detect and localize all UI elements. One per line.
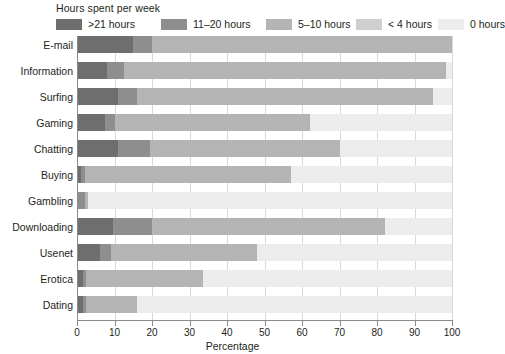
bar-row — [77, 244, 452, 261]
bar-row — [77, 88, 452, 105]
bar-row — [77, 166, 452, 183]
legend-swatch-icon — [266, 19, 292, 30]
bar-row — [77, 140, 452, 157]
bar-row — [77, 296, 452, 313]
x-tick-mark-60 — [302, 321, 303, 326]
x-tick-label-10: 10 — [109, 327, 120, 338]
legend-item-1: >21 hours — [56, 17, 135, 31]
legend-item-label: >21 hours — [88, 18, 135, 30]
legend-item-5: 0 hours — [438, 17, 505, 31]
legend-swatch-icon — [161, 19, 187, 30]
bar-segment — [433, 88, 452, 105]
bar-segment — [77, 244, 100, 261]
x-tick-mark-30 — [190, 321, 191, 326]
bar-segment — [152, 218, 385, 235]
x-tick-label-80: 80 — [371, 327, 382, 338]
bar-segment — [86, 296, 137, 313]
bar-segment — [118, 140, 150, 157]
x-tick-label-60: 60 — [296, 327, 307, 338]
bar-segment — [340, 140, 453, 157]
legend-swatch-icon — [56, 19, 82, 30]
bar-segment — [257, 244, 452, 261]
legend-item-label: 5–10 hours — [298, 18, 351, 30]
x-tick-mark-80 — [377, 321, 378, 326]
bar-segment — [88, 192, 452, 209]
bar-segment — [111, 244, 257, 261]
category-label-gaming: Gaming — [1, 117, 73, 129]
category-label-buying: Buying — [1, 169, 73, 181]
x-tick-mark-70 — [340, 321, 341, 326]
legend-title: Hours spent per week — [56, 2, 160, 14]
category-label-chatting: Chatting — [1, 143, 73, 155]
category-label-erotica: Erotica — [1, 273, 73, 285]
legend-item-label: 11–20 hours — [193, 18, 251, 30]
legend-item-label: < 4 hours — [388, 18, 432, 30]
bar-row — [77, 270, 452, 287]
x-tick-mark-20 — [152, 321, 153, 326]
bar-segment — [107, 62, 124, 79]
bar-row — [77, 62, 452, 79]
bar-segment — [77, 192, 85, 209]
chart-legend: >21 hours11–20 hours5–10 hours< 4 hours0… — [56, 17, 465, 31]
plot-area — [77, 36, 452, 321]
x-tick-label-30: 30 — [184, 327, 195, 338]
category-label-surfing: Surfing — [1, 91, 73, 103]
bar-segment — [113, 218, 152, 235]
category-label-downloading: Downloading — [1, 221, 73, 233]
x-tick-label-40: 40 — [221, 327, 232, 338]
bar-segment — [85, 166, 291, 183]
x-tick-label-100: 100 — [444, 327, 461, 338]
bar-segment — [115, 114, 310, 131]
bar-segment — [100, 244, 111, 261]
bar-segment — [77, 140, 118, 157]
bar-segment — [291, 166, 452, 183]
x-tick-label-50: 50 — [259, 327, 270, 338]
bar-segment — [77, 114, 105, 131]
bar-segment — [152, 36, 452, 53]
bar-segment — [137, 296, 452, 313]
bar-row — [77, 218, 452, 235]
bar-row — [77, 192, 452, 209]
bar-segment — [105, 114, 114, 131]
bar-segment — [86, 270, 202, 287]
category-label-e-mail: E-mail — [1, 39, 73, 51]
legend-swatch-icon — [356, 19, 382, 30]
category-label-gambling: Gambling — [1, 195, 73, 207]
bar-segment — [77, 62, 107, 79]
bar-segment — [77, 36, 133, 53]
legend-item-4: < 4 hours — [356, 17, 432, 31]
bar-segment — [133, 36, 152, 53]
x-tick-mark-10 — [115, 321, 116, 326]
gridline-100 — [452, 36, 453, 321]
bar-segment — [77, 218, 113, 235]
bar-segment — [124, 62, 447, 79]
legend-item-3: 5–10 hours — [266, 17, 351, 31]
bar-segment — [310, 114, 453, 131]
x-tick-label-70: 70 — [334, 327, 345, 338]
legend-item-2: 11–20 hours — [161, 17, 251, 31]
legend-item-label: 0 hours — [470, 18, 505, 30]
x-tick-label-0: 0 — [74, 327, 80, 338]
bar-segment — [446, 62, 452, 79]
x-tick-mark-0 — [77, 321, 78, 326]
bar-segment — [118, 88, 137, 105]
bar-segment — [203, 270, 452, 287]
bar-segment — [77, 88, 118, 105]
category-label-dating: Dating — [1, 299, 73, 311]
bar-row — [77, 114, 452, 131]
category-axis-labels: E-mailInformationSurfingGamingChattingBu… — [0, 36, 73, 321]
bar-segment — [150, 140, 339, 157]
x-tick-mark-90 — [415, 321, 416, 326]
category-label-usenet: Usenet — [1, 247, 73, 259]
legend-swatch-icon — [438, 19, 464, 30]
x-axis-title: Percentage — [0, 340, 465, 352]
x-tick-label-90: 90 — [409, 327, 420, 338]
x-tick-mark-50 — [265, 321, 266, 326]
bar-row — [77, 36, 452, 53]
bar-segment — [385, 218, 453, 235]
bar-segment — [137, 88, 433, 105]
x-tick-label-20: 20 — [146, 327, 157, 338]
category-label-information: Information — [1, 65, 73, 77]
x-tick-mark-100 — [452, 321, 453, 326]
